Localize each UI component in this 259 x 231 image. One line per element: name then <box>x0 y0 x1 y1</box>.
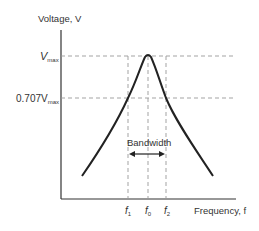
v707-label: 0.707Vmax <box>16 93 59 105</box>
x-axis-label: Frequency, f <box>194 205 246 216</box>
resonance-diagram: Voltage, V Vmax 0.707Vmax Bandwidth f1 f… <box>0 0 259 231</box>
f2-label: f2 <box>164 205 171 217</box>
bandwidth-arrow <box>129 151 165 157</box>
guide-lines <box>61 56 236 199</box>
y-axis-label: Voltage, V <box>38 13 82 24</box>
bandwidth-label: Bandwidth <box>127 137 171 148</box>
f1-label: f1 <box>125 205 132 217</box>
f0-label: f0 <box>145 205 152 217</box>
response-curve <box>82 55 213 176</box>
vmax-label: Vmax <box>40 50 59 63</box>
